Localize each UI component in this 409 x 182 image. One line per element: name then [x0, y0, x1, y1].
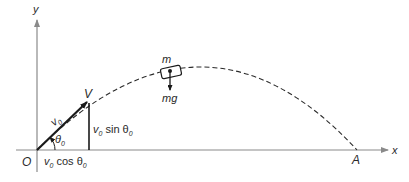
x-axis-label: x [391, 144, 398, 156]
angle-label: θ0 [55, 133, 65, 147]
weight-label: mg [162, 92, 178, 104]
origin-label: O [22, 155, 31, 169]
horizontal-component-label: v0 cos θ0 [44, 155, 87, 169]
vertical-component-label: v0 sin θ0 [93, 123, 133, 137]
projectile-diagram: y x O V A m mg v0 θ0 v0 sin θ0 v0 cos θ0 [0, 0, 409, 182]
velocity-vector-label: V [84, 87, 93, 101]
trajectory-path [37, 67, 357, 150]
landing-point-label: A [351, 153, 360, 167]
y-axis-label: y [32, 3, 40, 15]
mass-label: m [162, 53, 171, 65]
